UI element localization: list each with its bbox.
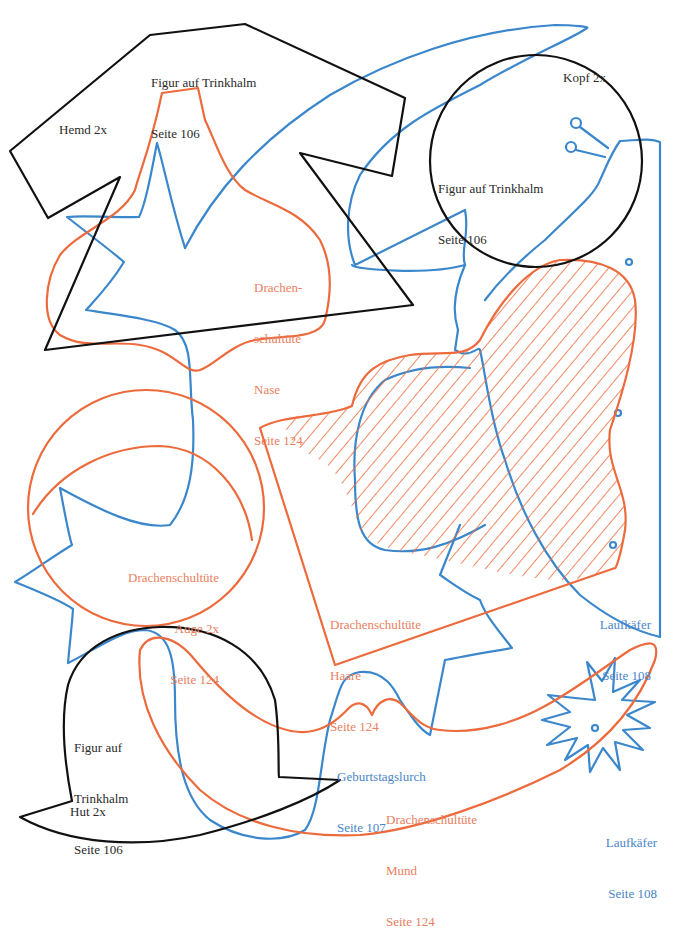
label-hemd-title: Figur auf Trinkhalm Seite 106 (151, 40, 256, 176)
label-laufkaefer-top: Laufkäfer Seite 108 (580, 582, 651, 718)
label-hut-part: Hut 2x (70, 803, 106, 820)
label-auge-title: Drachenschultüte (100, 569, 219, 586)
label-auge-part: Auge 2x (100, 620, 219, 637)
label-hemd-page: Seite 106 (151, 125, 256, 142)
label-kopf-title: Figur auf Trinkhalm Seite 106 (438, 146, 543, 282)
label-kopf-figure: Figur auf Trinkhalm (438, 180, 543, 197)
label-laufkaefer-bottom-page: Seite 108 (585, 885, 657, 902)
label-laufkaefer-top-page: Seite 108 (580, 667, 651, 684)
label-haare-page: Seite 124 (330, 718, 421, 735)
label-laufkaefer-top-title: Laufkäfer (580, 616, 651, 633)
label-auge: Drachenschultüte Auge 2x Seite 124 (100, 535, 219, 722)
label-mund-page: Seite 124 (386, 913, 477, 930)
label-hut-page: Seite 106 (74, 841, 128, 858)
label-laufkaefer-bottom-title: Laufkäfer (585, 834, 657, 851)
label-mund-title: Drachenschultüte (386, 811, 477, 828)
label-haare-title: Drachenschultüte (330, 616, 421, 633)
label-mund-part: Mund (386, 862, 477, 879)
label-auge-page: Seite 124 (100, 671, 219, 688)
label-hemd-part: Hemd 2x (59, 121, 107, 138)
label-nase: Drachen- schultüte Nase Seite 124 (254, 245, 303, 483)
label-nase-line1: Drachen- (254, 279, 303, 296)
label-hut-line1: Figur auf (74, 739, 128, 756)
label-hemd-figure: Figur auf Trinkhalm (151, 74, 256, 91)
label-haare-part: Haare (330, 667, 421, 684)
label-kopf-page: Seite 106 (438, 231, 543, 248)
label-nase-part: Nase (254, 381, 303, 398)
label-mund: Drachenschultüte Mund Seite 124 (386, 777, 477, 930)
label-hut: Figur auf Trinkhalm Seite 106 (74, 705, 128, 892)
label-nase-page: Seite 124 (254, 432, 303, 449)
label-kopf-part: Kopf 2x (563, 69, 606, 86)
label-laufkaefer-bottom: Laufkäfer Seite 108 (585, 800, 657, 930)
label-nase-line2: schultüte (254, 330, 303, 347)
